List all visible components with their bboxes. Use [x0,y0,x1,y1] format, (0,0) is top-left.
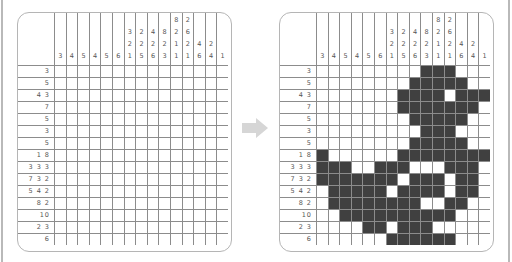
grid-cell[interactable] [147,102,159,114]
grid-cell[interactable] [66,138,78,150]
grid-cell[interactable] [78,174,90,186]
grid-cell[interactable] [124,138,136,150]
grid-cell[interactable] [55,66,67,78]
grid-cell[interactable] [78,150,90,162]
grid-cell[interactable] [159,90,171,102]
grid-cell[interactable] [217,126,228,138]
grid-cell[interactable] [217,198,228,210]
grid-cell[interactable] [78,126,90,138]
grid-cell[interactable] [89,78,101,90]
grid-cell[interactable] [78,222,90,234]
grid-cell[interactable] [112,114,124,126]
grid-cell[interactable] [205,138,217,150]
grid-cell[interactable] [159,66,171,78]
grid-cell[interactable] [217,102,228,114]
grid-cell[interactable] [55,162,67,174]
grid-cell[interactable] [55,210,67,222]
grid-cell[interactable] [182,174,194,186]
grid-cell[interactable] [66,78,78,90]
grid-cell[interactable] [89,162,101,174]
grid-cell[interactable] [182,102,194,114]
grid-cell[interactable] [89,114,101,126]
grid-cell[interactable] [78,90,90,102]
grid-cell[interactable] [101,198,113,210]
grid-cell[interactable] [205,126,217,138]
grid-cell[interactable] [194,150,206,162]
grid-cell[interactable] [217,66,228,78]
grid-cell[interactable] [89,90,101,102]
grid-cell[interactable] [182,150,194,162]
grid-cell[interactable] [217,174,228,186]
grid-cell[interactable] [194,222,206,234]
grid-cell[interactable] [112,78,124,90]
grid-cell[interactable] [205,174,217,186]
grid-cell[interactable] [89,174,101,186]
grid-cell[interactable] [194,198,206,210]
grid-cell[interactable] [194,138,206,150]
grid-cell[interactable] [136,114,148,126]
grid-cell[interactable] [136,126,148,138]
grid-cell[interactable] [112,66,124,78]
grid-cell[interactable] [182,90,194,102]
grid-cell[interactable] [170,234,182,246]
grid-cell[interactable] [66,162,78,174]
grid-cell[interactable] [101,138,113,150]
grid-cell[interactable] [205,114,217,126]
grid-cell[interactable] [101,234,113,246]
grid-cell[interactable] [78,102,90,114]
grid-cell[interactable] [205,186,217,198]
grid-cell[interactable] [66,174,78,186]
grid-cell[interactable] [159,102,171,114]
grid-cell[interactable] [147,90,159,102]
grid-cell[interactable] [124,198,136,210]
grid-cell[interactable] [112,162,124,174]
grid-cell[interactable] [66,66,78,78]
grid-cell[interactable] [147,78,159,90]
grid-cell[interactable] [136,186,148,198]
grid-cell[interactable] [159,126,171,138]
grid-cell[interactable] [182,66,194,78]
grid-cell[interactable] [89,138,101,150]
grid-cell[interactable] [170,210,182,222]
grid-cell[interactable] [78,138,90,150]
grid-cell[interactable] [136,222,148,234]
grid-cell[interactable] [159,222,171,234]
grid-cell[interactable] [89,102,101,114]
grid-cell[interactable] [182,114,194,126]
grid-cell[interactable] [66,186,78,198]
grid-cell[interactable] [170,174,182,186]
grid-cell[interactable] [182,162,194,174]
grid-cell[interactable] [55,186,67,198]
grid-cell[interactable] [66,234,78,246]
grid-cell[interactable] [101,150,113,162]
grid-cell[interactable] [112,102,124,114]
grid-cell[interactable] [182,198,194,210]
grid-cell[interactable] [55,90,67,102]
grid-cell[interactable] [124,186,136,198]
grid-cell[interactable] [89,150,101,162]
grid-cell[interactable] [194,78,206,90]
grid-cell[interactable] [182,234,194,246]
grid-cell[interactable] [205,78,217,90]
grid-cell[interactable] [101,222,113,234]
grid-cell[interactable] [182,126,194,138]
grid-cell[interactable] [147,150,159,162]
grid-cell[interactable] [217,78,228,90]
grid-cell[interactable] [217,138,228,150]
grid-cell[interactable] [124,162,136,174]
grid-cell[interactable] [159,78,171,90]
grid-cell[interactable] [147,162,159,174]
grid-cell[interactable] [55,150,67,162]
grid-cell[interactable] [78,198,90,210]
grid-cell[interactable] [194,90,206,102]
grid-cell[interactable] [55,198,67,210]
grid-cell[interactable] [101,114,113,126]
grid-cell[interactable] [217,114,228,126]
grid-cell[interactable] [147,198,159,210]
grid-cell[interactable] [78,210,90,222]
grid-cell[interactable] [159,234,171,246]
grid-cell[interactable] [205,66,217,78]
grid-cell[interactable] [170,186,182,198]
grid-cell[interactable] [55,114,67,126]
grid-cell[interactable] [78,186,90,198]
